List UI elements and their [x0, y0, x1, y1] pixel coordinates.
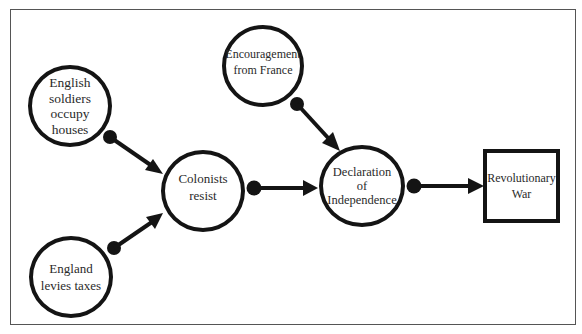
node-revolutionary-war: Revolutionary War [483, 149, 560, 223]
arrow-resist-to-declaration [247, 180, 319, 196]
node-label: Revolutionary War [487, 170, 556, 202]
node-encouragement-france: Encouragement from France [222, 25, 304, 107]
node-label: Encouragement from France [225, 46, 300, 78]
arrow-taxes-to-resist [107, 213, 163, 255]
node-england-taxes: England levies taxes [29, 236, 113, 318]
arrowhead-icon [303, 180, 318, 196]
arrowhead-icon [468, 178, 484, 194]
node-colonists-resist: Colonists resist [161, 150, 245, 232]
node-english-soldiers: English soldiers occupy houses [28, 65, 112, 147]
node-label: England levies taxes [41, 260, 101, 294]
arrow-soldiers-to-resist [103, 130, 163, 174]
node-declaration-independence: Declaration of Independence [319, 145, 405, 227]
arrow-declaration-to-war [407, 178, 485, 194]
node-label: English soldiers occupy houses [49, 75, 91, 137]
arrow-france-to-declaration [290, 97, 340, 151]
node-label: Declaration of Independence [327, 165, 396, 207]
node-label: Colonists resist [178, 170, 227, 204]
